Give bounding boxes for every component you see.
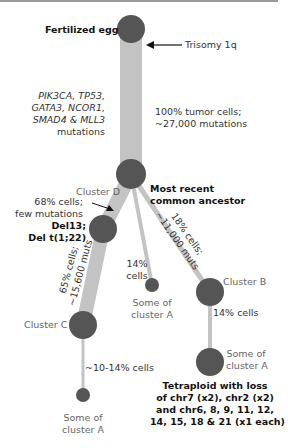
tetraploid-line: of chr7 (x2), chr2 (x2) [150,392,280,404]
cluster-b-label: Cluster B [223,276,266,288]
cluster-a-mid-line: Some of [127,297,177,309]
del13-node [89,215,117,243]
mid-branch-stats-line: cells [122,270,152,282]
mrca-line: Most recent [150,183,245,195]
driver-line: PIK3CA, TP53, [20,90,105,102]
fertilized-egg-node [117,15,145,43]
cluster-a-bottom-line: Some of [58,412,108,424]
mrca-label: Most recent common ancestor [150,183,245,207]
driver-mutations-label: PIK3CA, TP53, GATA3, NCOR1, SMAD4 & MLL3… [20,90,105,138]
driver-line: SMAD4 & MLL3 [20,114,105,126]
cluster-a-bottom-node [76,388,90,402]
cluster-a-bottom-label: Some of cluster A [58,412,108,436]
cluster-a-bottom-line: cluster A [58,424,108,436]
cluster-c-label: Cluster C [24,319,67,331]
driver-line: mutations [20,126,105,138]
cluster-c-node [69,311,97,339]
cluster-c-child-stats-label: ~10-14% cells [85,362,154,374]
cluster-a-right-node [196,348,224,376]
cluster-b-node [196,278,224,306]
trunk-stats-line: ~27,000 mutations [155,118,247,130]
cluster-a-right-line: cluster A [226,360,266,372]
driver-line: GATA3, NCOR1, [20,102,105,114]
cluster-d-stats-line: few mutations [5,208,83,220]
trunk-stats-line: 100% tumor cells; [155,106,247,118]
cluster-d-stats-label: 68% cells; few mutations [5,196,83,220]
trunk-stats-label: 100% tumor cells; ~27,000 mutations [155,106,247,130]
trisomy-arrowhead-icon [146,41,154,49]
del13-line: Del13; [20,220,86,232]
mrca-line: common ancestor [150,195,245,207]
tetraploid-label: Tetraploid with loss of chr7 (x2), chr2 … [150,380,280,428]
mrca-node [116,159,146,189]
cluster-a-mid-label: Some of cluster A [127,297,177,321]
tetraploid-line: and chr6, 8, 9, 11, 12, [150,404,280,416]
fertilized-egg-label: Fertilized egg [45,24,119,36]
tetraploid-line: Tetraploid with loss [150,380,280,392]
cluster-d-stats-line: 68% cells; [5,196,83,208]
cluster-a-right-line: Some of [226,348,266,360]
tetraploid-line: 14, 15, 18 & 21 (x1 each) [150,416,280,428]
cluster-a-mid-line: cluster A [127,309,177,321]
mid-branch-stats-line: 14% [122,258,152,270]
mid-branch-stats-label: 14% cells [122,258,152,282]
cluster-a-right-label: Some of cluster A [226,348,266,372]
trisomy-label: Trisomy 1q [185,39,237,51]
cluster-b-child-stats-label: 14% cells [213,307,258,319]
